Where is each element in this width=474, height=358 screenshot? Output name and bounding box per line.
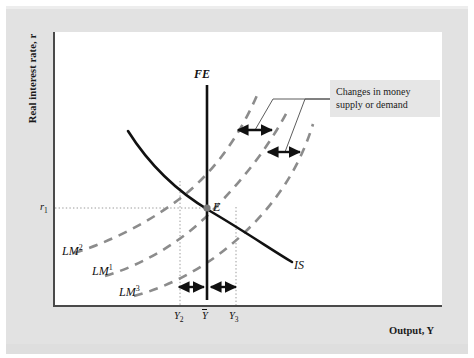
is-curve-label: IS (294, 258, 304, 273)
lm1-sup: 1 (109, 263, 113, 272)
y-axis-title: Real interest rate, r (27, 19, 38, 139)
lm1-base: LM (92, 264, 109, 278)
x-axis-line (53, 305, 442, 307)
lm1-curve-label: LM1 (92, 263, 113, 279)
r1-sub: 1 (44, 206, 48, 215)
x-tick-label-ybar: Y (202, 310, 208, 321)
money-supply-callout-text: Changes in money supply or demand (336, 86, 410, 111)
panel-shadow-bottom (6, 344, 468, 354)
figure-screenshot: Real interest rate, r Output, Y (0, 0, 474, 358)
x-tick-label-y2: Y2 (174, 310, 184, 324)
y3-sub: 3 (235, 315, 239, 324)
panel-highlight-top (6, 6, 468, 9)
lm2-base: LM (62, 244, 79, 258)
money-supply-callout-box: Changes in money supply or demand (330, 80, 440, 117)
ybar-base: Y (202, 310, 208, 321)
y-tick-label-r1: r1 (40, 201, 48, 215)
lm2-curve-label: LM2 (62, 243, 83, 259)
lm3-curve-label: LM3 (119, 284, 140, 300)
y2-sub: 2 (180, 315, 184, 324)
equilibrium-point-label: E (213, 200, 220, 215)
x-tick-label-y3: Y3 (229, 310, 239, 324)
x-axis-title: Output, Y (389, 325, 434, 336)
fe-curve-label: FE (194, 67, 210, 82)
lm2-sup: 2 (79, 243, 83, 252)
lm3-base: LM (119, 285, 136, 299)
lm3-sup: 3 (136, 284, 140, 293)
y-axis-line (53, 32, 55, 307)
